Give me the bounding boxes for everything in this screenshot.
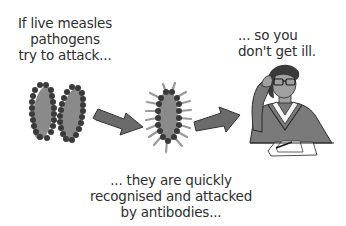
arrow-right-icon: [93, 109, 143, 135]
caption-line: ... they are quickly: [78, 172, 264, 188]
healthy-person-icon: [250, 65, 334, 156]
caption-line: recognised and attacked: [78, 188, 264, 204]
pathogen-with-antibodies-icon: [146, 83, 191, 152]
caption-line: try to attack...: [12, 47, 118, 63]
caption-step-2: ... they are quickly recognised and atta…: [78, 172, 264, 220]
caption-line: If live measles: [12, 15, 118, 31]
caption-line: pathogens: [12, 31, 118, 47]
caption-step-1: If live measles pathogens try to attack.…: [12, 15, 118, 63]
caption-line: don't get ill.: [238, 43, 318, 59]
measles-pathogen-icon: [29, 82, 57, 141]
caption-step-3: ... so you don't get ill.: [238, 27, 318, 59]
measles-pathogen-icon: [57, 84, 87, 143]
caption-line: ... so you: [238, 27, 318, 43]
arrow-right-icon: [194, 107, 240, 132]
caption-line: by antibodies...: [78, 204, 264, 220]
diagram-canvas: If live measles pathogens try to attack.…: [0, 0, 346, 226]
